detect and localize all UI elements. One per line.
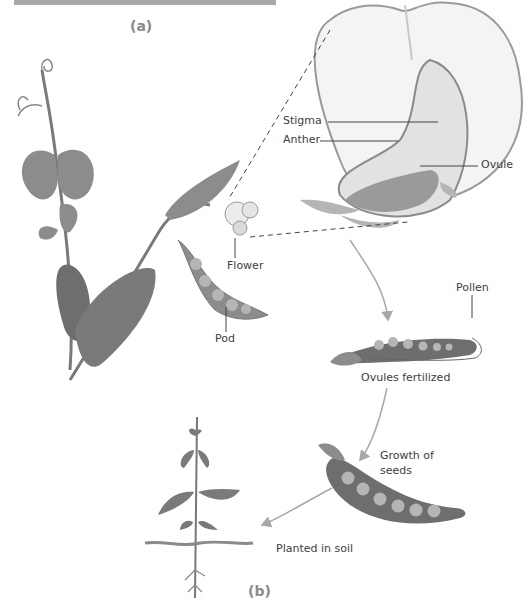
growth-of-seeds-label-line2: seeds <box>380 464 412 477</box>
pea-plant-icon <box>18 60 240 380</box>
planted-in-soil-label: Planted in soil <box>276 542 353 555</box>
pea-pod-icon <box>178 240 268 319</box>
panel-a-label: (a) <box>130 18 152 34</box>
flower-label: Flower <box>227 259 263 272</box>
growth-of-seeds-label-line1: Growth of <box>380 449 434 462</box>
pod-label: Pod <box>215 332 235 345</box>
fertilized-pod-icon <box>330 337 481 366</box>
pollen-label: Pollen <box>456 281 489 294</box>
ovules-fertilized-label: Ovules fertilized <box>361 371 450 384</box>
anther-label: Anther <box>283 133 320 146</box>
pea-life-cycle-illustration <box>0 0 532 608</box>
seedling-icon <box>145 417 253 598</box>
stigma-label: Stigma <box>283 114 322 127</box>
ovule-label: Ovule <box>481 158 513 171</box>
pea-flower-icon <box>225 202 258 235</box>
panel-b-label: (b) <box>248 583 271 599</box>
flower-cross-section-icon <box>300 3 522 228</box>
